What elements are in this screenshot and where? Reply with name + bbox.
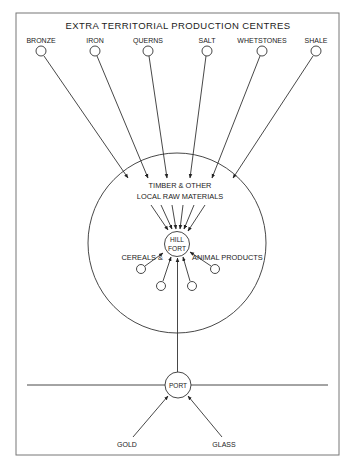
arrow-glass: [188, 396, 222, 437]
centre-node-salt: [202, 46, 212, 56]
arrow-local-1: [151, 205, 168, 230]
diagram-title: EXTRA TERRITORIAL PRODUCTION CENTRES: [66, 20, 291, 31]
local-node-lower-right: [188, 282, 197, 291]
hill-fort-label-line2: FORT: [168, 245, 186, 252]
centre-label-salt: SALT: [199, 37, 217, 44]
arrow-local-2: [161, 205, 172, 229]
trade-network-diagram: EXTRA TERRITORIAL PRODUCTION CENTRES BRO…: [0, 0, 351, 470]
centre-label-querns: QUERNS: [133, 37, 163, 45]
local-materials-line2: LOCAL RAW MATERIALS: [137, 192, 223, 201]
arrow-local-lower-right: [183, 257, 190, 281]
import-label-gold: GOLD: [117, 441, 137, 448]
local-node-left: [137, 265, 146, 274]
arrow-whetstones: [212, 56, 260, 178]
arrow-local-4: [180, 205, 183, 229]
territory-circle: [88, 153, 266, 333]
hill-fort-label-line1: HILL: [170, 236, 184, 243]
arrow-local-6: [188, 205, 205, 231]
arrow-local-5: [184, 205, 194, 229]
local-materials-line1: TIMBER & OTHER: [149, 181, 212, 190]
arrow-local-lower-left: [163, 257, 171, 281]
centre-label-iron: IRON: [86, 37, 104, 44]
import-label-glass: GLASS: [212, 441, 236, 448]
arrow-salt: [190, 56, 206, 178]
centre-label-bronze: BRONZE: [26, 37, 56, 44]
arrow-shale: [233, 56, 313, 178]
port-label: PORT: [169, 382, 187, 389]
local-node-lower-left: [157, 282, 166, 291]
centre-node-shale: [311, 46, 321, 56]
centre-node-bronze: [36, 46, 46, 56]
arrow-gold: [133, 396, 168, 437]
local-node-right: [211, 265, 220, 274]
centre-node-querns: [143, 46, 153, 56]
centre-node-whetstones: [257, 46, 267, 56]
arrow-bronze: [44, 56, 128, 178]
arrow-local-3: [172, 205, 176, 229]
centre-node-iron: [90, 46, 100, 56]
centre-label-whetstones: WHETSTONES: [237, 37, 287, 44]
arrow-querns: [149, 56, 167, 178]
arrow-iron: [97, 56, 148, 178]
centre-label-shale: SHALE: [305, 37, 328, 44]
